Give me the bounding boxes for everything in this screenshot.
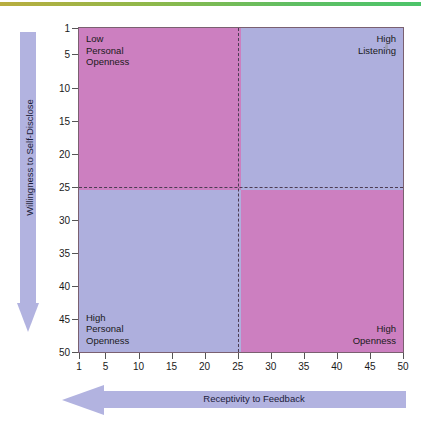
y-axis-arrow-head-down-icon [17,303,39,332]
x-tick-mark [403,353,404,359]
y-tick-mark [72,253,78,254]
x-tick-mark [105,353,106,359]
quadrant-bottom-right: High Openness [241,190,403,352]
y-tick-label: 30 [59,214,70,225]
quadrant-top-right: High Listening [241,28,403,190]
y-tick-label: 10 [59,82,70,93]
quadrant-bottom-left-label: High Personal Openness [86,312,129,347]
y-tick-mark [72,54,78,55]
y-tick-mark [72,187,78,188]
x-tick-mark [139,353,140,359]
y-tick-mark [72,121,78,122]
y-tick-mark [72,220,78,221]
x-tick-label: 40 [331,361,342,372]
y-tick-label: 15 [59,115,70,126]
y-tick-label: 5 [64,49,70,60]
vertical-divider-dashed-line [238,28,239,352]
x-tick-label: 35 [298,361,309,372]
y-tick-label: 50 [59,347,70,358]
x-axis-title: Receptivity to Feedback [102,393,406,404]
x-tick-label: 1 [76,361,82,372]
quadrant-top-left-label: Low Personal Openness [86,33,129,68]
scan-artifact-speck [385,44,388,50]
y-tick-label: 40 [59,280,70,291]
y-tick-label: 45 [59,313,70,324]
y-tick-label: 25 [59,181,70,192]
y-tick-mark [72,352,78,353]
x-tick-label: 50 [397,361,408,372]
x-tick-mark [79,353,80,359]
quadrant-bottom-left: High Personal Openness [79,190,241,352]
x-axis-arrow-head-left-icon [62,385,104,415]
x-tick-mark [337,353,338,359]
y-tick-mark [72,319,78,320]
quadrant-top-left: Low Personal Openness [79,28,241,190]
x-tick-label: 5 [103,361,109,372]
x-tick-mark [370,353,371,359]
y-tick-mark [72,28,78,29]
y-tick-label: 1 [64,23,70,34]
quadrant-bottom-right-label: High Openness [353,323,396,346]
x-tick-mark [238,353,239,359]
y-tick-mark [72,88,78,89]
plot-area: Low Personal Openness High Listening Hig… [78,27,404,353]
x-tick-label: 20 [199,361,210,372]
x-tick-mark [205,353,206,359]
quadrant-chart-figure: Willingness to Self-Disclose Low Persona… [0,6,421,423]
y-tick-mark [72,286,78,287]
x-tick-mark [271,353,272,359]
x-tick-mark [304,353,305,359]
x-axis-arrow: Receptivity to Feedback [62,385,406,415]
x-tick-label: 45 [364,361,375,372]
y-axis-arrow: Willingness to Self-Disclose [17,32,39,332]
horizontal-divider-dashed-line [79,187,403,188]
x-tick-label: 15 [166,361,177,372]
x-tick-mark [172,353,173,359]
y-tick-label: 35 [59,247,70,258]
y-axis-title: Willingness to Self-Disclose [24,33,35,283]
x-tick-label: 10 [133,361,144,372]
y-tick-mark [72,154,78,155]
y-tick-label: 20 [59,148,70,159]
quadrant-top-right-label: High Listening [358,33,396,56]
x-tick-label: 25 [232,361,243,372]
x-tick-label: 30 [265,361,276,372]
